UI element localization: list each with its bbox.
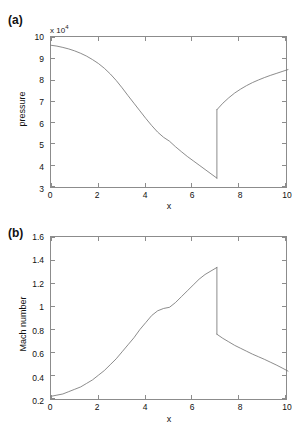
y-tickmark-right <box>282 165 286 166</box>
y-tickmark-right <box>282 398 286 399</box>
y-tickmark-right <box>282 122 286 123</box>
y-tickmark-right <box>282 283 286 284</box>
plot-area-pressure <box>50 36 287 188</box>
ytick-a-3: 6 <box>22 119 44 129</box>
ytick-a-6: 9 <box>22 54 44 64</box>
xtick-a-0: 0 <box>40 190 60 200</box>
ytick-a-2: 5 <box>22 140 44 150</box>
exponent-prefix-a: x 10 <box>50 26 65 35</box>
ytick-a-1: 4 <box>22 162 44 172</box>
ytick-b-2: 0.6 <box>18 349 44 359</box>
y-tickmark <box>51 237 55 238</box>
mach-curve <box>51 237 288 401</box>
x-tickmark-top <box>98 237 99 241</box>
y-axis-exponent-a: x 104 <box>50 24 68 35</box>
y-tickmark-right <box>282 352 286 353</box>
y-tickmark <box>51 260 55 261</box>
y-tickmark <box>51 398 55 399</box>
ytick-b-6: 1.4 <box>18 255 44 265</box>
y-tickmark <box>51 143 55 144</box>
y-tickmark <box>51 101 55 102</box>
xtick-b-3: 6 <box>182 402 202 412</box>
y-tickmark <box>51 352 55 353</box>
y-tickmark-right <box>282 375 286 376</box>
xtick-a-1: 2 <box>87 190 107 200</box>
y-tickmark <box>51 80 55 81</box>
x-tickmark <box>191 183 192 187</box>
xtick-b-1: 2 <box>87 402 107 412</box>
ytick-a-7: 10 <box>22 32 44 42</box>
y-tickmark <box>51 283 55 284</box>
x-tickmark-top <box>238 37 239 41</box>
x-tickmark-top <box>145 37 146 41</box>
y-tickmark-right <box>282 37 286 38</box>
x-tickmark-top <box>191 37 192 41</box>
ytick-b-1: 0.4 <box>18 373 44 383</box>
x-tickmark <box>238 395 239 399</box>
xtick-b-5: 10 <box>277 402 297 412</box>
xtick-a-5: 10 <box>277 190 297 200</box>
pressure-curve <box>51 37 288 189</box>
panel-label-a: (a) <box>8 13 23 27</box>
y-tickmark <box>51 58 55 59</box>
plot-area-mach <box>50 236 287 400</box>
ytick-a-5: 8 <box>22 75 44 85</box>
xtick-a-3: 6 <box>182 190 202 200</box>
xtick-a-2: 4 <box>135 190 155 200</box>
y-tickmark-right <box>282 329 286 330</box>
x-tickmark-top <box>145 237 146 241</box>
x-tickmark-top <box>238 237 239 241</box>
y-tickmark-right <box>282 143 286 144</box>
xtick-b-2: 4 <box>135 402 155 412</box>
ytick-a-4: 7 <box>22 97 44 107</box>
y-tickmark-right <box>282 186 286 187</box>
x-axis-label-a: x <box>148 201 190 211</box>
x-tickmark <box>98 183 99 187</box>
y-tickmark-right <box>282 101 286 102</box>
x-tickmark <box>191 395 192 399</box>
y-tickmark <box>51 165 55 166</box>
y-tickmark-right <box>282 237 286 238</box>
panel-mach-number: (b) Mach number 0.2 0.4 0.6 0.8 1 1.2 1.… <box>0 219 303 438</box>
panel-pressure: (a) x 104 pressure 3 4 5 6 7 8 9 10 0 2 … <box>0 0 303 219</box>
xtick-b-4: 8 <box>230 402 250 412</box>
x-tickmark <box>145 183 146 187</box>
y-tickmark <box>51 186 55 187</box>
ytick-b-7: 1.6 <box>18 232 44 242</box>
y-tickmark-right <box>282 80 286 81</box>
y-tickmark-right <box>282 306 286 307</box>
y-tickmark <box>51 122 55 123</box>
exponent-power-a: 4 <box>65 24 68 30</box>
x-tickmark-top <box>191 237 192 241</box>
y-tickmark <box>51 37 55 38</box>
x-tickmark-top <box>98 37 99 41</box>
x-tickmark <box>145 395 146 399</box>
y-tickmark <box>51 375 55 376</box>
y-tickmark <box>51 329 55 330</box>
y-tickmark-right <box>282 58 286 59</box>
x-tickmark <box>98 395 99 399</box>
ytick-b-5: 1.2 <box>18 279 44 289</box>
ytick-b-3: 0.8 <box>18 326 44 336</box>
xtick-a-4: 8 <box>230 190 250 200</box>
y-tickmark-right <box>282 260 286 261</box>
xtick-b-0: 0 <box>40 402 60 412</box>
x-axis-label-b: x <box>148 414 190 424</box>
x-tickmark <box>238 183 239 187</box>
ytick-b-4: 1 <box>18 302 44 312</box>
y-tickmark <box>51 306 55 307</box>
